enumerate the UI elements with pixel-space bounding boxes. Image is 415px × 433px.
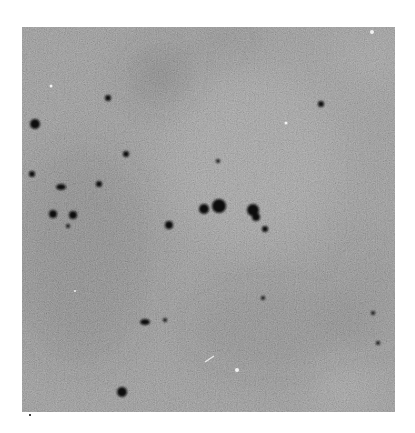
marker-dot [29,414,31,416]
star-field-image [22,27,395,412]
star-field-plate [22,27,395,412]
grain-noise [22,27,395,412]
